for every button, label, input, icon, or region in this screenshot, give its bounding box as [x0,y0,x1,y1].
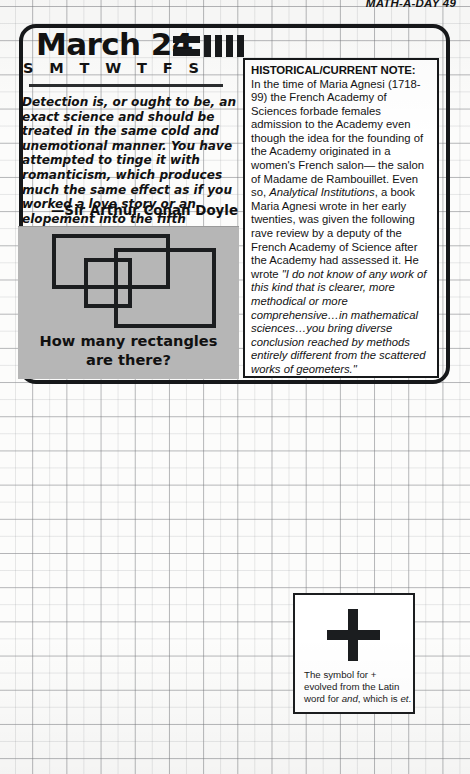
marker-bar-h1 [173,36,200,43]
quote-attribution: —Sir Arthur Conan Doyle [22,203,238,218]
historical-note-body: In the time of Maria Agnesi (1718-99) th… [251,78,431,377]
weekday-sat: S [188,60,198,76]
plus-symbol-box: The symbol for + evolved from the Latin … [293,593,415,714]
historical-note-box: HISTORICAL/CURRENT NOTE: In the time of … [243,58,439,378]
marker-bar-v1 [204,35,211,57]
running-head: MATH-A-DAY 49 [366,0,456,9]
weekday-fri: F [163,60,173,76]
weekday-mon: M [49,60,63,76]
note-paragraph-part-1: In the time of Maria Agnesi (1718-99) th… [251,78,424,199]
weekday-thu: T [137,60,147,76]
marker-bar-v3 [226,35,233,57]
weekday-sun: S [23,60,33,76]
page-title: March 24 [36,26,193,62]
marker-bar-v4 [237,35,244,57]
weekday-tue: T [80,60,90,76]
weekday-wed: W [105,60,121,76]
header-divider [29,84,223,87]
marker-bar-h2 [173,49,200,56]
note-paragraph-part-2: , a book Maria Agnesi wrote in her early… [251,186,419,280]
page-root: MATH-A-DAY 49 March 24 S M T W T F S Det… [0,0,470,774]
puzzle-caption-line-1: How many rectangles [18,331,239,350]
puzzle-caption-line-2: are there? [18,350,239,369]
plus-caption-part-c: . [408,693,411,704]
weekday-row: S M T W T F S [23,60,199,76]
puzzle-panel: How many rectangles are there? [18,226,239,379]
overlapping-rectangles-figure [34,232,224,330]
puzzle-caption: How many rectangles are there? [18,331,239,369]
plus-caption-part-b: , which is [358,693,401,704]
quote-text: Detection is, or ought to be, an exact s… [22,95,236,241]
plus-symbol-caption: The symbol for + evolved from the Latin … [304,669,412,706]
plus-vertical-stroke [348,609,358,661]
calendar-week-marker-icon [173,34,245,59]
plus-sign-icon [295,607,417,663]
note-book-title: Analytical Institutions [269,186,375,198]
puzzle-rectangle-2 [114,248,216,328]
plus-caption-word-and: and [342,693,358,704]
note-review-quote: "I do not know of any work of this kind … [251,268,426,375]
marker-bar-v2 [215,35,222,57]
historical-note-title: HISTORICAL/CURRENT NOTE: [251,64,431,78]
